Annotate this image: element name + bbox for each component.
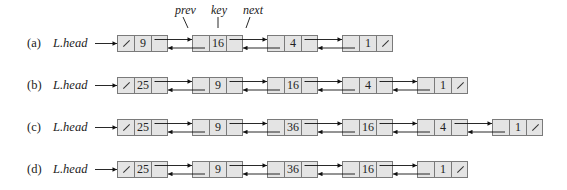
pointer-arrows (0, 0, 567, 190)
